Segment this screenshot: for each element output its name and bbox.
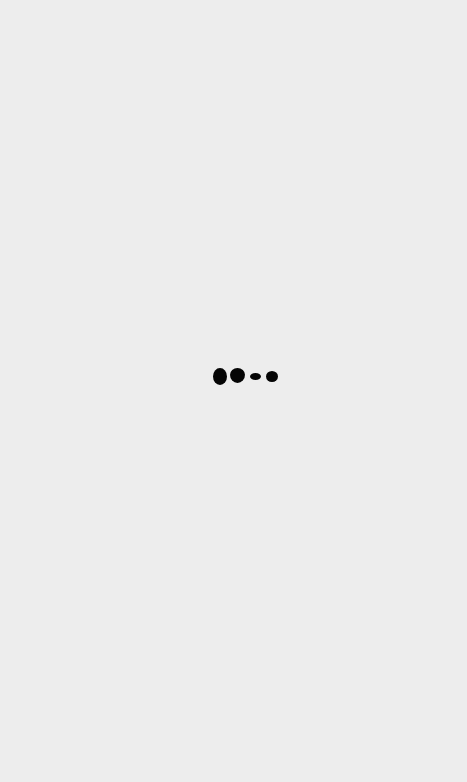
loading-dot-icon	[266, 371, 278, 382]
loading-dot-icon	[250, 373, 261, 380]
loading-dot-icon	[213, 368, 227, 385]
loading-indicator: Loading	[212, 367, 282, 387]
loading-label: Loading	[212, 367, 213, 368]
loading-screen: Loading	[0, 0, 467, 782]
loading-dot-icon	[230, 368, 245, 383]
